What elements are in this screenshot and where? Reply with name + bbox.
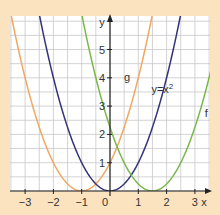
y-tick-label: 5 <box>99 44 105 56</box>
x-axis-label: x <box>201 196 207 208</box>
x-tick-label: −1 <box>75 196 88 208</box>
x-tick-label: 0 <box>102 196 108 208</box>
function-graph: −3−2−1012312345xygy=x2f <box>0 0 220 215</box>
x-tick-label: −3 <box>19 196 32 208</box>
y-tick-label: 2 <box>99 128 105 140</box>
x-tick-label: 3 <box>192 196 198 208</box>
x-tick-label: 1 <box>135 196 141 208</box>
y-tick-label: 1 <box>99 157 105 169</box>
y-tick-label: 3 <box>99 100 105 112</box>
y-axis-label: y <box>99 16 105 28</box>
x-tick-label: −2 <box>47 196 60 208</box>
y-tick-label: 4 <box>99 72 105 84</box>
x-tick-label: 2 <box>164 196 170 208</box>
series-label: g <box>124 71 130 83</box>
